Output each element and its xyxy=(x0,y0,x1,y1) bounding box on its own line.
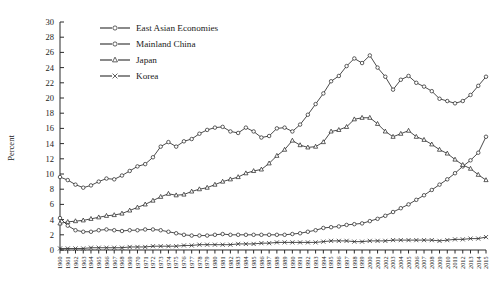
y-tick-label: 18 xyxy=(46,108,55,118)
y-tick-label: 6 xyxy=(50,199,54,209)
x-tick-label: 1977 xyxy=(188,257,195,269)
legend-label: Japan xyxy=(136,55,157,65)
data-point-marker xyxy=(283,126,287,130)
legend-item-korea[interactable]: Korea xyxy=(100,71,158,81)
y-tick-label: 30 xyxy=(46,17,55,27)
data-point-marker xyxy=(438,183,442,187)
data-point-marker xyxy=(190,137,194,141)
data-point-marker xyxy=(260,233,264,237)
data-point-marker xyxy=(113,42,117,46)
data-point-marker xyxy=(461,163,465,167)
x-tick-label: 1999 xyxy=(358,257,365,269)
data-point-marker xyxy=(236,233,240,237)
x-tick-label: 1992 xyxy=(304,257,311,269)
y-tick-label: 0 xyxy=(50,245,54,255)
y-tick-label: 12 xyxy=(46,154,55,164)
x-tick-label: 1980 xyxy=(211,257,218,269)
data-point-marker xyxy=(476,172,480,176)
data-point-marker xyxy=(120,174,124,178)
data-point-marker xyxy=(337,225,341,229)
x-tick-label: 1962 xyxy=(72,257,79,269)
x-tick-label: 1981 xyxy=(219,257,226,269)
data-point-marker xyxy=(58,221,62,225)
data-point-marker xyxy=(375,121,379,125)
y-tick-label: 4 xyxy=(50,215,55,225)
x-tick-label: 2014 xyxy=(475,257,482,269)
data-point-marker xyxy=(275,233,279,237)
data-point-marker xyxy=(105,177,109,181)
data-point-marker xyxy=(73,219,77,223)
data-point-marker xyxy=(415,198,419,202)
data-point-marker xyxy=(329,225,333,229)
x-tick-label: 1979 xyxy=(203,257,210,269)
legend-label: Korea xyxy=(136,71,158,81)
data-point-marker xyxy=(182,192,186,196)
y-tick-label: 16 xyxy=(46,123,55,133)
y-tick-label: 26 xyxy=(46,47,55,57)
data-point-marker xyxy=(236,131,240,135)
data-point-marker xyxy=(306,230,310,234)
data-point-marker xyxy=(337,74,341,78)
y-tick-label: 24 xyxy=(46,63,55,73)
data-point-marker xyxy=(89,216,93,220)
data-point-marker xyxy=(252,169,256,173)
data-point-marker xyxy=(205,185,209,189)
data-point-marker xyxy=(113,74,118,79)
data-point-marker xyxy=(182,233,186,237)
data-point-marker xyxy=(128,169,132,173)
x-tick-label: 1990 xyxy=(289,257,296,269)
legend-item-east-asian-economies[interactable]: East Asian Economies xyxy=(100,23,219,33)
data-point-marker xyxy=(244,233,248,237)
data-point-marker xyxy=(143,202,147,206)
x-tick-label: 1991 xyxy=(296,257,303,269)
data-point-marker xyxy=(74,228,78,232)
x-tick-label: 2011 xyxy=(451,257,458,269)
data-point-marker xyxy=(461,99,465,103)
data-point-marker xyxy=(205,234,209,238)
x-tick-label: 1976 xyxy=(180,257,187,269)
data-point-marker xyxy=(81,218,85,222)
data-point-marker xyxy=(352,117,356,121)
data-point-marker xyxy=(415,81,419,85)
data-point-marker xyxy=(267,233,271,237)
series-line xyxy=(60,237,486,248)
data-point-marker xyxy=(151,198,155,202)
data-point-marker xyxy=(135,205,139,209)
data-point-marker xyxy=(477,84,481,88)
series-mainland-china xyxy=(58,135,488,237)
data-point-marker xyxy=(422,137,426,141)
x-tick-label: 1986 xyxy=(258,257,265,269)
x-tick-label: 2000 xyxy=(366,257,373,269)
data-point-marker xyxy=(484,178,488,182)
x-tick-label: 1960 xyxy=(56,257,63,269)
x-tick-label: 1994 xyxy=(320,257,327,269)
data-point-marker xyxy=(306,145,310,149)
data-point-marker xyxy=(229,130,233,134)
data-point-marker xyxy=(143,228,147,232)
data-point-marker xyxy=(407,203,411,207)
data-point-marker xyxy=(406,128,410,132)
data-point-marker xyxy=(267,134,271,138)
x-tick-label: 1995 xyxy=(327,257,334,269)
data-point-marker xyxy=(66,224,70,228)
data-point-marker xyxy=(128,208,132,212)
data-point-marker xyxy=(244,171,248,175)
data-point-marker xyxy=(314,102,318,106)
data-point-marker xyxy=(213,233,217,237)
x-tick-label: 1982 xyxy=(227,257,234,269)
legend-item-japan[interactable]: Japan xyxy=(100,55,157,65)
data-point-marker xyxy=(74,183,78,187)
x-tick-label: 2008 xyxy=(428,257,435,269)
data-point-marker xyxy=(484,135,488,139)
data-point-marker xyxy=(143,162,147,166)
x-tick-label: 2009 xyxy=(436,257,443,269)
data-point-marker xyxy=(97,215,101,219)
x-tick-label: 2012 xyxy=(459,257,466,269)
data-point-marker xyxy=(407,74,411,78)
x-tick-label: 1983 xyxy=(234,257,241,269)
data-point-marker xyxy=(252,233,256,237)
data-point-marker xyxy=(360,222,364,226)
data-point-marker xyxy=(89,184,93,188)
data-point-marker xyxy=(104,213,108,217)
legend-item-mainland-china[interactable]: Mainland China xyxy=(100,39,195,49)
